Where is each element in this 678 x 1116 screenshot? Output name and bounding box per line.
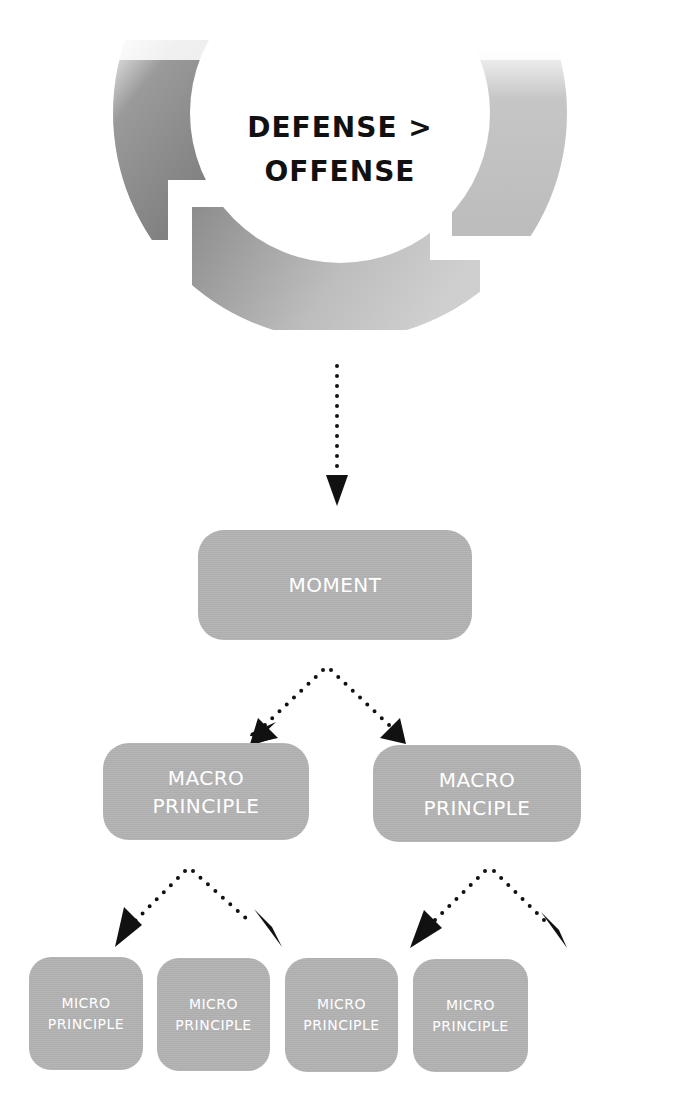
connector-moment-to-macro-left [264, 670, 323, 726]
connector-macro2-to-micro4 [494, 871, 545, 921]
macro-principle-node-1-line2: PRINCIPLE [152, 792, 259, 820]
micro-principle-node-2: MICRO PRINCIPLE [157, 958, 270, 1071]
micro-principle-node-4-line2: PRINCIPLE [432, 1016, 508, 1037]
micro-principle-node-3-line2: PRINCIPLE [303, 1015, 379, 1036]
connector-macro2-to-micro3 [434, 871, 485, 921]
micro-principle-node-2-line1: MICRO [189, 994, 238, 1015]
macro-principle-node-2-line1: MACRO [439, 766, 516, 794]
micro-principle-node-4: MICRO PRINCIPLE [413, 959, 528, 1072]
arrowhead-down-right-icon [380, 718, 406, 744]
arrowhead-down-right-icon [541, 912, 567, 948]
arrowhead-down-left-icon [115, 907, 142, 947]
connector-macro1-to-micro1 [135, 871, 185, 921]
macro-principle-node-1-line1: MACRO [168, 764, 245, 792]
micro-principle-node-1: MICRO PRINCIPLE [29, 957, 143, 1070]
arrowhead-down-left-icon [410, 910, 442, 948]
macro-principle-node-2: MACRO PRINCIPLE [373, 745, 581, 842]
micro-principle-node-3-line1: MICRO [317, 994, 366, 1015]
micro-principle-node-3: MICRO PRINCIPLE [285, 958, 398, 1072]
micro-principle-node-1-line1: MICRO [61, 993, 110, 1014]
micro-principle-node-4-line1: MICRO [446, 995, 495, 1016]
moment-node: MOMENT [198, 530, 472, 640]
macro-principle-node-2-line2: PRINCIPLE [423, 794, 530, 822]
micro-principle-node-2-line2: PRINCIPLE [175, 1015, 251, 1036]
arrowhead-down-icon [326, 475, 348, 506]
arrowhead-down-left-icon [250, 718, 278, 744]
moment-node-label: MOMENT [288, 573, 381, 597]
connector-moment-to-macro-right [331, 670, 390, 726]
connector-macro1-to-micro2 [193, 871, 249, 921]
macro-principle-node-1: MACRO PRINCIPLE [103, 743, 309, 840]
micro-principle-node-1-line2: PRINCIPLE [48, 1014, 124, 1035]
arrowhead-down-right-icon [254, 909, 282, 947]
